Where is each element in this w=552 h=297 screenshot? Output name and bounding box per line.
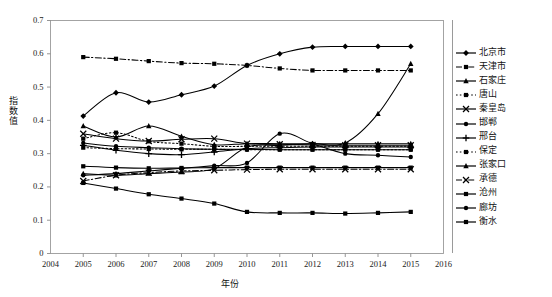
- series-marker: [114, 131, 118, 135]
- series-marker: [343, 68, 347, 72]
- series-marker: [81, 164, 85, 168]
- series-marker: [114, 57, 118, 61]
- series-marker: [113, 90, 119, 96]
- series-marker: [408, 61, 413, 66]
- series-marker: [343, 166, 347, 170]
- series-line: [83, 46, 411, 116]
- series-marker: [212, 201, 216, 205]
- series-marker: [114, 171, 118, 175]
- series-marker: [376, 68, 380, 72]
- series-marker: [212, 163, 216, 167]
- series-marker: [245, 210, 249, 214]
- series-line: [83, 64, 411, 176]
- series-marker: [146, 99, 152, 105]
- series-marker: [409, 155, 413, 159]
- series-marker: [376, 153, 380, 157]
- series-marker: [179, 92, 185, 98]
- series-marker: [409, 210, 413, 214]
- series-marker: [343, 148, 347, 152]
- series-marker: [376, 211, 380, 215]
- series-marker: [278, 131, 282, 135]
- series-marker: [278, 148, 282, 152]
- series-marker: [376, 148, 380, 152]
- series-marker: [278, 211, 282, 215]
- series-marker: [114, 166, 118, 170]
- series-marker: [310, 211, 314, 215]
- series-marker: [310, 166, 314, 170]
- series-marker: [375, 44, 381, 50]
- series-marker: [310, 68, 314, 72]
- series-marker: [179, 61, 183, 65]
- series-marker: [376, 166, 380, 170]
- series-marker: [81, 55, 85, 59]
- series-layer: [80, 44, 414, 216]
- series-13: [81, 181, 413, 216]
- series-marker: [179, 147, 183, 151]
- series-marker: [179, 166, 183, 170]
- series-marker: [278, 166, 282, 170]
- series-marker: [147, 192, 151, 196]
- series-marker: [409, 166, 413, 170]
- series-marker: [212, 147, 216, 151]
- series-marker: [81, 146, 85, 150]
- series-marker: [212, 62, 216, 66]
- series-marker: [277, 51, 283, 57]
- series-line: [83, 183, 411, 214]
- series-marker: [179, 142, 183, 146]
- series-marker: [310, 148, 314, 152]
- series-marker: [114, 186, 118, 190]
- series-marker: [147, 59, 151, 63]
- series-marker: [81, 123, 86, 128]
- series-marker: [81, 173, 85, 177]
- series-marker: [409, 68, 413, 72]
- series-12: [81, 131, 413, 177]
- series-marker: [81, 181, 85, 185]
- plot-frame: [51, 21, 444, 254]
- series-marker: [147, 169, 151, 173]
- series-marker: [278, 66, 282, 70]
- series-marker: [245, 63, 249, 67]
- series-9: [81, 61, 414, 178]
- series-marker: [408, 44, 414, 50]
- series-marker: [343, 211, 347, 215]
- series-marker: [211, 83, 217, 89]
- series-marker: [342, 44, 348, 50]
- series-marker: [147, 147, 151, 151]
- series-marker: [245, 161, 249, 165]
- series-1: [80, 44, 413, 119]
- series-marker: [114, 147, 118, 151]
- series-marker: [81, 137, 85, 141]
- series-marker: [245, 166, 249, 170]
- series-marker: [179, 196, 183, 200]
- series-marker: [409, 148, 413, 152]
- series-marker: [310, 141, 314, 145]
- series-marker: [343, 151, 347, 155]
- legend-border: [452, 20, 552, 253]
- series-marker: [310, 44, 316, 50]
- series-2: [81, 55, 413, 73]
- chart-figure: 指数值 年份 00.10.20.30.40.50.60.7 2004200520…: [0, 0, 552, 297]
